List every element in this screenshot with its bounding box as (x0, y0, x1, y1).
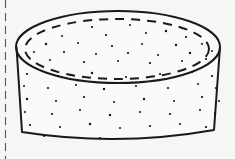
stipple-dot (23, 85, 25, 87)
stipple-dot (199, 109, 201, 111)
stipple-dot (77, 42, 79, 44)
stipple-dot (211, 50, 213, 52)
stipple-dot (26, 73, 28, 75)
stipple-dot (103, 88, 105, 90)
stipple-dot (215, 87, 217, 89)
stipple-dot (59, 126, 61, 128)
stipple-dot (205, 58, 207, 60)
stipple-dot (185, 36, 187, 38)
stipple-dot (91, 26, 93, 28)
stipple-dot (191, 71, 193, 73)
stipple-dot (83, 96, 85, 98)
stipple-dot (45, 43, 47, 45)
stipple-dot (197, 83, 199, 85)
stipple-dot (83, 61, 85, 63)
stipple-dot (47, 87, 49, 89)
stipple-dot (157, 54, 159, 56)
disc-body-group (16, 11, 220, 139)
stipple-dot (57, 75, 59, 77)
stipple-dot (24, 111, 26, 113)
stipple-dot (49, 59, 51, 61)
stipple-dot (61, 35, 63, 37)
stipple-dot (179, 123, 181, 125)
stipple-dot (201, 96, 203, 98)
stipple-dot (181, 60, 183, 62)
stipple-dot (159, 73, 161, 75)
stipple-dot (99, 137, 101, 139)
stipple-dot (55, 100, 57, 102)
stipple-dot (51, 113, 53, 115)
stipple-dot (141, 43, 143, 45)
stipple-dot (43, 135, 45, 137)
figure-page (0, 0, 235, 159)
stipple-dot (214, 112, 216, 114)
stipple-dot (33, 51, 35, 53)
stipple-dot (145, 32, 147, 34)
stipple-dot (135, 85, 137, 87)
stipple-dot (149, 125, 151, 127)
stipple-dot (201, 43, 203, 45)
stipple-dot (79, 109, 81, 111)
stipple-dot (63, 51, 65, 53)
stipple-dot (105, 34, 107, 36)
stipple-dot (205, 126, 207, 128)
cylindrical-disc-illustration (0, 0, 235, 159)
stipple-dot (117, 60, 119, 62)
stipple-dot (167, 87, 169, 89)
stipple-dot (113, 101, 115, 103)
stipple-dot (95, 53, 97, 55)
stipple-dot (109, 114, 111, 116)
stipple-dot (165, 30, 167, 32)
stipple-dot (26, 98, 28, 100)
stipple-dot (175, 44, 177, 46)
stipple-dot (111, 45, 113, 47)
stipple-dot (91, 72, 93, 74)
stipple-dot (129, 24, 131, 26)
stipple-dot (211, 75, 213, 77)
stipple-dot (218, 100, 220, 102)
stipple-dot (189, 52, 191, 54)
stipple-dot (139, 111, 141, 113)
stipple-dot (29, 124, 31, 126)
stipple-dot (125, 76, 127, 78)
stipple-dot (127, 52, 129, 54)
stipple-dot (75, 84, 77, 86)
stipple-dot (173, 100, 175, 102)
stipple-dot (89, 123, 91, 125)
stipple-dot (143, 98, 145, 100)
stipple-dot (119, 127, 121, 129)
stipple-dot (169, 113, 171, 115)
stipple-dot (149, 62, 151, 64)
